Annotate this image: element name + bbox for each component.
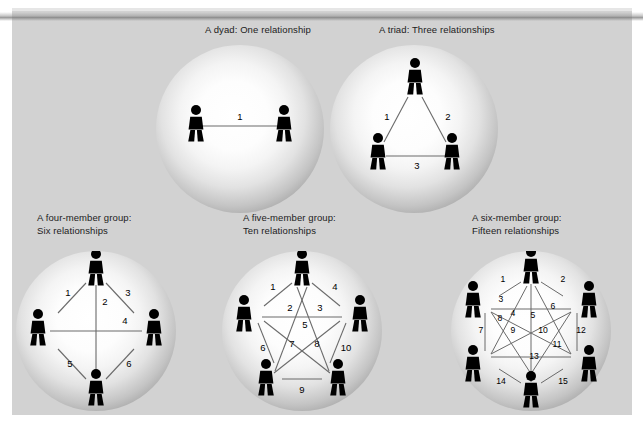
relationship-label: 3 bbox=[499, 294, 504, 304]
relationship-label: 12 bbox=[576, 325, 586, 335]
relationship-label: 4 bbox=[511, 308, 516, 318]
relationship-label: 6 bbox=[126, 359, 131, 369]
relationship-label: 3 bbox=[414, 161, 419, 171]
relationship-label: 1 bbox=[65, 288, 70, 298]
relationship-label: 6 bbox=[551, 301, 556, 311]
group-six-member: 1 2 3 4 5 6 7 8 9 10 11 12 13 14 15 bbox=[451, 251, 611, 411]
caption-five-member: A five-member group: Ten relationships bbox=[243, 212, 418, 237]
relationship-label: 7 bbox=[289, 339, 294, 349]
relationship-network-dyad bbox=[156, 45, 324, 213]
relationship-label: 15 bbox=[558, 376, 568, 386]
relationship-label: 13 bbox=[529, 351, 539, 361]
relationship-label: 1 bbox=[237, 112, 242, 122]
relationship-label: 8 bbox=[314, 339, 319, 349]
relationship-label: 2 bbox=[287, 303, 292, 313]
caption-dyad: A dyad: One relationship bbox=[205, 24, 385, 37]
group-four-member: 1 2 3 4 5 6 bbox=[16, 251, 176, 411]
relationship-label: 9 bbox=[299, 385, 304, 395]
relationship-label: 10 bbox=[341, 343, 352, 353]
group-triad: 1 2 3 bbox=[330, 45, 498, 213]
relationship-label: 1 bbox=[270, 282, 275, 292]
relationship-label: 11 bbox=[553, 339, 562, 349]
relationship-label: 5 bbox=[67, 359, 72, 369]
relationship-network-four-member bbox=[16, 251, 176, 411]
caption-triad: A triad: Three relationships bbox=[379, 24, 569, 37]
caption-six-member: A six-member group: Fifteen relationship… bbox=[472, 212, 643, 237]
relationship-label: 5 bbox=[302, 320, 307, 330]
relationship-label: 4 bbox=[332, 282, 337, 292]
relationship-label: 14 bbox=[496, 376, 506, 386]
relationship-label: 7 bbox=[479, 325, 484, 335]
relationship-label: 4 bbox=[122, 316, 127, 326]
relationship-label: 9 bbox=[511, 325, 516, 335]
group-five-member: 1 2 3 4 5 6 7 8 9 10 bbox=[222, 251, 382, 411]
relationship-label: 8 bbox=[498, 313, 503, 323]
relationship-network-triad bbox=[330, 45, 498, 213]
relationship-label: 2 bbox=[102, 297, 107, 307]
relationship-label: 3 bbox=[317, 303, 322, 313]
figure-root: A dyad: One relationship bbox=[0, 0, 643, 435]
group-dyad: 1 bbox=[156, 45, 324, 213]
relationship-network-six-member bbox=[451, 251, 611, 411]
relationship-label: 1 bbox=[501, 274, 506, 284]
relationship-label: 10 bbox=[538, 325, 548, 335]
relationship-label: 6 bbox=[260, 343, 265, 353]
relationship-label: 3 bbox=[125, 288, 130, 298]
caption-four-member: A four-member group: Six relationships bbox=[37, 212, 212, 237]
relationship-label: 2 bbox=[561, 274, 566, 284]
relationship-label: 5 bbox=[531, 310, 536, 320]
relationship-label: 2 bbox=[445, 112, 450, 122]
relationship-label: 1 bbox=[384, 112, 389, 122]
